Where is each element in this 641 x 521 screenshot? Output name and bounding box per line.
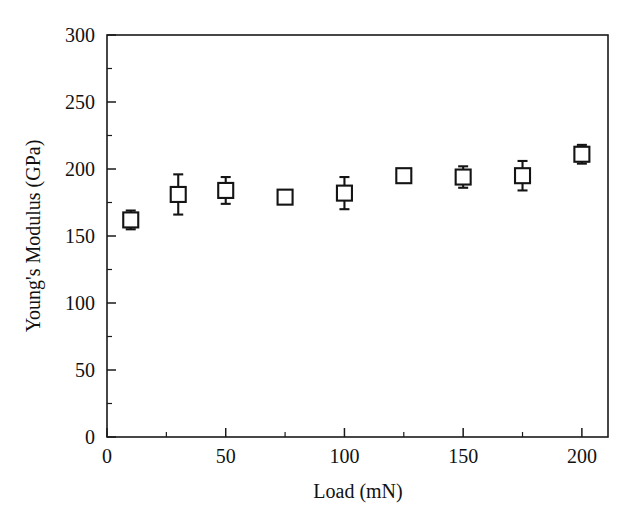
x-tick-label: 50	[216, 445, 236, 467]
y-tick-label: 300	[65, 24, 95, 46]
data-point	[574, 145, 589, 164]
marker-open-square	[396, 168, 411, 183]
y-tick-label: 250	[65, 91, 95, 113]
youngs-modulus-vs-load-chart: 050100150200 050100150200250300 Load (mN…	[0, 0, 641, 521]
data-point	[456, 166, 471, 187]
marker-open-square	[574, 147, 589, 162]
x-tick-label: 150	[448, 445, 478, 467]
marker-open-square	[278, 190, 293, 205]
y-tick-label: 50	[75, 359, 95, 381]
y-tick-label: 100	[65, 292, 95, 314]
y-axis-title: Young's Modulus (GPa)	[22, 140, 45, 333]
y-tick-label: 150	[65, 225, 95, 247]
marker-open-square	[337, 186, 352, 201]
x-tick-label: 200	[567, 445, 597, 467]
y-tick-label: 200	[65, 158, 95, 180]
x-tick-label: 0	[102, 445, 112, 467]
x-axis-title: Load (mN)	[313, 480, 402, 503]
marker-open-square	[171, 187, 186, 202]
marker-open-square	[456, 170, 471, 185]
data-point	[396, 168, 411, 183]
marker-open-square	[515, 168, 530, 183]
marker-open-square	[218, 183, 233, 198]
y-tick-label: 0	[85, 426, 95, 448]
figure-container: 050100150200 050100150200250300 Load (mN…	[0, 0, 641, 521]
marker-open-square	[123, 212, 138, 227]
data-point	[278, 190, 293, 205]
data-point	[123, 211, 138, 230]
chart-background	[0, 0, 641, 521]
x-tick-label: 100	[329, 445, 359, 467]
